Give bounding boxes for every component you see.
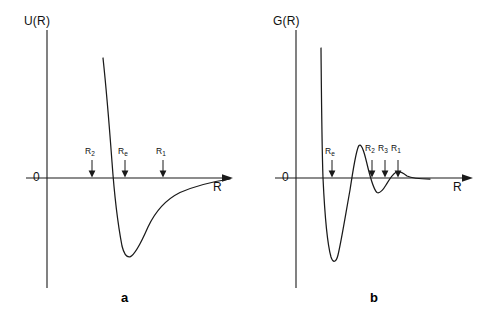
- x-axis-arrowhead-b: [462, 174, 473, 182]
- annotation-arrow-r2-a: [89, 160, 96, 178]
- panel-caption-a: a: [121, 290, 128, 305]
- y-axis-label-b: G(R): [273, 14, 300, 28]
- annotation-arrow-re-b: [329, 160, 336, 178]
- y-axis-label-a: U(R): [24, 14, 50, 28]
- origin-label-a: 0: [33, 170, 40, 184]
- tick-label-re-a: Re: [118, 146, 128, 156]
- panel-b: G(R) 0 R Re R2 R3 R1 b: [249, 0, 498, 320]
- annotation-arrow-r1-b: [395, 160, 402, 178]
- tick-label-r3-b: R3: [378, 143, 388, 153]
- annotation-arrow-r1-a: [160, 160, 167, 178]
- tick-label-r2-b: R2: [365, 143, 375, 153]
- curve-u-of-r: [103, 58, 230, 257]
- x-axis-label-b: R: [453, 180, 462, 194]
- x-axis-label-a: R: [213, 180, 222, 194]
- panel-a-plot: [0, 0, 249, 320]
- figure-container: U(R) 0 R R2 Re R1 a: [0, 0, 498, 320]
- panel-a: U(R) 0 R R2 Re R1 a: [0, 0, 249, 320]
- annotation-arrow-re-a: [122, 160, 129, 178]
- tick-label-r2-a: R2: [85, 146, 95, 156]
- panel-b-plot: [249, 0, 498, 320]
- annotation-arrow-r3-b: [382, 160, 389, 178]
- tick-label-r1-a: R1: [156, 146, 166, 156]
- origin-label-b: 0: [282, 170, 289, 184]
- tick-label-r1-b: R1: [391, 143, 401, 153]
- panel-caption-b: b: [370, 290, 378, 305]
- tick-label-re-b: Re: [325, 146, 335, 156]
- curve-g-of-r: [321, 48, 430, 261]
